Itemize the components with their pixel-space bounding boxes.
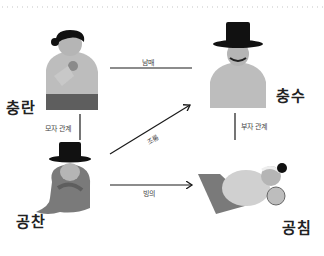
- gongchan-figure: [30, 142, 102, 218]
- edge-label-father-son: 부자 관계: [241, 121, 267, 131]
- edge-label-siblings: 남매: [142, 57, 154, 67]
- edge-label-possession: 빙의: [143, 188, 155, 198]
- chungsu-figure: [206, 20, 270, 110]
- node-label-gongchan: 공찬: [16, 210, 45, 231]
- edge-mockery-line: [110, 105, 190, 154]
- node-label-gongchim: 공침: [282, 216, 311, 237]
- node-label-chungran: 충란: [6, 96, 35, 117]
- chungran-figure: [40, 28, 102, 110]
- gongchim-figure: [196, 158, 302, 216]
- node-label-chungsu: 충수: [276, 84, 305, 105]
- edge-label-mother-son: 모자 관계: [45, 123, 71, 133]
